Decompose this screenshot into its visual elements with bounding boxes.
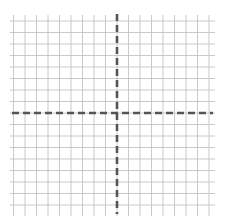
grid-lines [10, 15, 215, 216]
coordinate-grid [0, 0, 228, 222]
